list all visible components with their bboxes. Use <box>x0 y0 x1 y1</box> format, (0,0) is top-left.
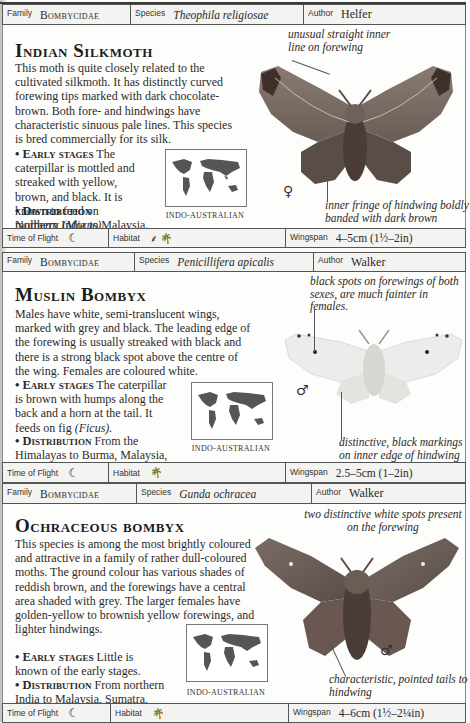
time-of-flight-cell: Time of Flight ☾ <box>3 229 109 247</box>
family-cell: Family Bombycidae <box>3 5 131 24</box>
time-of-flight-cell: Time of Flight ☾ <box>3 704 111 722</box>
habitat-cell: Habitat ⸙ 🌴 <box>109 229 286 247</box>
palm-tree-icon: 🌴 <box>152 708 164 719</box>
world-map <box>165 149 247 207</box>
wingspan-cell: Wingspan 4–5cm (1½–2in) <box>286 229 465 247</box>
wingspan-label: Wingspan <box>290 467 328 477</box>
annotation-pointed-tails: characteristic, pointed tails to hindwin… <box>329 673 469 698</box>
author-value: Walker <box>351 255 385 270</box>
species-card: Indian Silkmoth This moth is quite close… <box>2 25 466 228</box>
species-title: Ochraceous bombyx <box>15 515 185 537</box>
annotation-leader-line <box>314 310 315 352</box>
species-label: Species <box>141 487 171 497</box>
wingspan-value: 2.5–5cm (1–2in) <box>336 467 413 479</box>
annotation-hindwing: inner fringe of hindwing boldly banded w… <box>325 199 470 224</box>
species-cell: Species Gunda ochracea <box>137 484 312 503</box>
species-description: This moth is quite closely related to th… <box>15 61 237 146</box>
male-symbol-icon: ♂ <box>380 642 393 658</box>
early-stages-section: • Early stages Little is known of the ea… <box>15 650 165 678</box>
family-value: Bombycidae <box>40 488 99 500</box>
habitat-label: Habitat <box>115 708 142 718</box>
habitat-label: Habitat <box>113 468 140 478</box>
annotation-text: characteristic, pointed tails to hindwin… <box>329 673 468 698</box>
author-cell: Author Walker <box>312 484 465 503</box>
author-cell: Author Walker <box>314 253 465 271</box>
wingspan-label: Wingspan <box>290 232 328 242</box>
annotation-text: inner fringe of hindwing boldly banded w… <box>325 199 469 224</box>
flight-habitat-wingspan-bar: Time of Flight ☾ Habitat 🌴 Wingspan 2.5–… <box>2 462 466 483</box>
description-text: This species is among the most brightly … <box>15 537 254 636</box>
family-value: Bombycidae <box>40 9 99 21</box>
family-label: Family <box>7 8 32 18</box>
species-value: Gunda ochracea <box>179 488 256 500</box>
early-stages-genus: (Ficus). <box>75 421 113 435</box>
female-symbol-icon: ♀ <box>283 183 293 199</box>
species-description: Males have white, semi-translucent wings… <box>15 307 255 378</box>
species-title: Muslin Bombyx <box>15 284 146 306</box>
crescent-moon-icon: ☾ <box>68 706 79 720</box>
bullet: • <box>15 434 23 448</box>
family-value: Bombycidae <box>40 256 99 268</box>
crescent-moon-icon: ☾ <box>68 231 79 245</box>
wingspan-cell: Wingspan 2.5–5cm (1–2in) <box>286 463 465 482</box>
time-of-flight-cell: Time of Flight ☾ <box>3 463 109 482</box>
time-of-flight-label: Time of Flight <box>7 233 58 243</box>
author-label: Author <box>318 255 343 265</box>
annotation-forewing-spots: black spots on forewings of both sexes, … <box>310 275 460 313</box>
habitat-label: Habitat <box>113 233 140 243</box>
annotation-text: distinctive, black markings on inner edg… <box>339 436 463 461</box>
species-label: Species <box>135 8 165 18</box>
species-label: Species <box>139 255 169 265</box>
distribution-label: Distribution <box>23 678 92 692</box>
time-of-flight-label: Time of Flight <box>7 468 58 478</box>
bullet: • <box>15 650 23 664</box>
male-symbol-icon: ♂ <box>296 382 309 398</box>
species-cell: Species Theophila religiosae <box>131 5 304 24</box>
ochraceous-bombyx-illustration <box>251 520 463 670</box>
bullet: • <box>15 204 23 218</box>
flight-habitat-wingspan-bar: Time of Flight ☾ Habitat ⸙ 🌴 Wingspan 4–… <box>2 228 466 248</box>
early-stages-label: Early stages <box>23 147 94 161</box>
early-stages-section: • Early stages The caterpillar is brown … <box>15 378 170 435</box>
family-label: Family <box>7 487 32 497</box>
author-label: Author <box>316 487 341 497</box>
wingspan-value: 4–6cm (1½–2¼in) <box>339 707 424 719</box>
family-cell: Family Bombycidae <box>3 253 135 271</box>
taxonomy-header: Family Bombycidae Species Penicillifera … <box>2 252 466 272</box>
bullet: • <box>15 678 23 692</box>
annotation-hindwing-markings: distinctive, black markings on inner edg… <box>339 436 469 461</box>
habitat-cell: Habitat 🌴 <box>111 704 289 722</box>
muslin-bombyx-illustration <box>281 322 466 407</box>
distribution-label: Distribution <box>23 204 92 218</box>
early-stages-label: Early stages <box>23 650 94 664</box>
annotation-leader-line <box>327 170 328 202</box>
family-label: Family <box>7 255 32 265</box>
crescent-moon-icon: ☾ <box>68 466 79 480</box>
time-of-flight-label: Time of Flight <box>7 708 58 718</box>
bullet: • <box>15 378 23 392</box>
bullet: • <box>15 147 23 161</box>
habitat-cell: Habitat 🌴 <box>109 463 286 482</box>
world-map-icon <box>192 383 272 439</box>
wingspan-value: 4–5cm (1½–2in) <box>336 232 413 244</box>
early-stages-label: Early stages <box>23 378 94 392</box>
world-map <box>191 382 273 440</box>
palm-tree-icon: 🌴 <box>160 233 172 244</box>
map-region-label: INDO-AUSTRALIAN <box>150 211 260 220</box>
description-text: This moth is quite closely related to th… <box>15 61 232 146</box>
annotation-white-spots: two distinctive white spots present on t… <box>303 508 463 533</box>
annotation-leader-line <box>341 392 342 440</box>
palm-tree-icon: 🌴 <box>150 467 162 478</box>
distribution-label: Distribution <box>23 434 92 448</box>
species-title: Indian Silkmoth <box>15 40 153 62</box>
species-cell: Species Penicillifera apicalis <box>135 253 314 271</box>
taxonomy-header: Family Bombycidae Species Gunda ochracea… <box>2 483 466 504</box>
grassland-icon: ⸙ <box>150 231 158 245</box>
species-card: Ochraceous bombyx This species is among … <box>2 504 466 708</box>
description-text: Males have white, semi-translucent wings… <box>15 307 250 378</box>
flight-habitat-wingspan-bar: Time of Flight ☾ Habitat 🌴 Wingspan 4–6c… <box>2 703 466 723</box>
world-map-icon <box>166 150 246 206</box>
author-label: Author <box>308 8 333 18</box>
wingspan-label: Wingspan <box>293 707 331 717</box>
indian-silkmoth-illustration <box>253 52 458 192</box>
